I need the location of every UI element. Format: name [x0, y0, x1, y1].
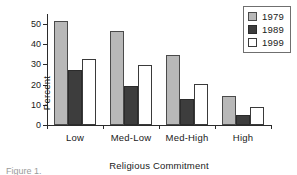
bar-1989-low	[68, 70, 82, 126]
legend-swatch-1999-icon	[248, 38, 257, 47]
x-axis-title: Religious Commitment	[47, 160, 271, 171]
figure-container: 01020304050 LowMed-LowMed-HighHigh Perce…	[0, 0, 297, 175]
legend-item-1979: 1979	[248, 10, 284, 23]
x-tick-label: Med-High	[159, 132, 215, 143]
x-tick-mark	[271, 125, 272, 129]
bar-1989-med-high	[180, 99, 194, 125]
y-tick-label: 20	[31, 80, 41, 89]
bar-group	[54, 14, 96, 125]
bar-group	[166, 14, 208, 125]
y-tick-mark	[43, 44, 47, 45]
bar-1979-high	[222, 96, 236, 125]
y-tick-label: 0	[36, 121, 41, 130]
y-tick-label: 30	[31, 60, 41, 69]
bar-1999-low	[82, 59, 96, 125]
legend-label-1999: 1999	[262, 38, 284, 48]
bar-1979-med-low	[110, 31, 124, 125]
bar-1999-high	[250, 107, 264, 125]
bar-1989-high	[236, 115, 250, 125]
legend-label-1979: 1979	[262, 12, 284, 22]
x-tick-label: Low	[47, 132, 103, 143]
x-tick-mark	[103, 125, 104, 129]
y-axis-title: Percent	[41, 76, 52, 110]
bar-1999-med-low	[138, 65, 152, 125]
y-tick-mark	[43, 24, 47, 25]
x-tick-mark	[215, 125, 216, 129]
legend-item-1999: 1999	[248, 36, 284, 49]
figure-caption: Figure 1.	[6, 166, 42, 175]
y-axis-title-text: Percent	[41, 76, 52, 110]
bar-1979-med-high	[166, 55, 180, 125]
x-tick-mark	[159, 125, 160, 129]
legend: 1979 1989 1999	[243, 6, 291, 53]
bar-1999-med-high	[194, 84, 208, 125]
x-tick-mark	[47, 125, 48, 129]
bar-1979-low	[54, 21, 68, 125]
legend-label-1989: 1989	[262, 25, 284, 35]
y-tick-label: 50	[31, 20, 41, 29]
x-tick-label: Med-Low	[103, 132, 159, 143]
x-tick-label: High	[215, 132, 271, 143]
y-tick-label: 10	[31, 100, 41, 109]
legend-swatch-1989-icon	[248, 25, 257, 34]
y-tick-label: 40	[31, 40, 41, 49]
legend-swatch-1979-icon	[248, 12, 257, 21]
legend-item-1989: 1989	[248, 23, 284, 36]
bar-group	[110, 14, 152, 125]
y-tick-mark	[43, 64, 47, 65]
bar-1989-med-low	[124, 86, 138, 125]
plot-area: 01020304050 LowMed-LowMed-HighHigh Perce…	[47, 14, 271, 125]
